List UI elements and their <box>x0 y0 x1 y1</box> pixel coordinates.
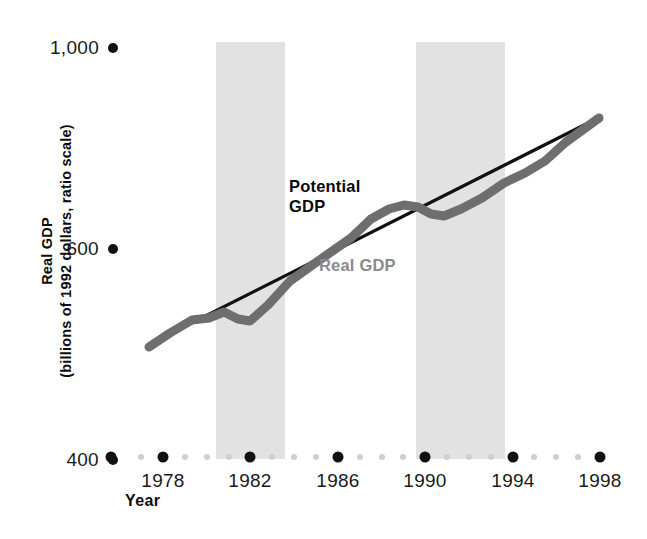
y-axis-title: Real GDP (billions of 1992 dollars, rati… <box>38 106 76 396</box>
x-major-dot-1994 <box>507 452 518 463</box>
x-minor-dot <box>204 454 210 460</box>
x-major-dot-1982 <box>245 452 256 463</box>
x-minor-dot <box>269 454 275 460</box>
annotation-real-gdp: Real GDP <box>319 255 396 275</box>
x-tick-label-1998: 1998 <box>578 470 621 492</box>
chart-figure: Potential GDP Real GDP 1,000 600 400 197… <box>0 0 647 539</box>
y-tick-600-dot <box>108 244 118 254</box>
x-minor-dot <box>575 454 581 460</box>
x-minor-dot <box>466 454 472 460</box>
y-tick-1000: 1,000 <box>18 37 118 59</box>
x-minor-dot <box>291 454 297 460</box>
x-minor-dot <box>182 454 188 460</box>
y-tick-400: 400 <box>18 449 118 471</box>
y-tick-1000-dot <box>108 43 118 53</box>
x-major-dot-1990 <box>420 452 431 463</box>
x-minor-dot <box>400 454 406 460</box>
x-minor-dot <box>553 454 559 460</box>
x-axis-origin-dot <box>105 452 116 463</box>
x-tick-label-1986: 1986 <box>316 470 359 492</box>
x-major-dot-1998 <box>595 452 606 463</box>
annotation-potential-gdp: Potential GDP <box>289 176 360 216</box>
x-tick-label-1982: 1982 <box>228 470 271 492</box>
x-minor-dot <box>444 454 450 460</box>
x-minor-dot <box>379 454 385 460</box>
y-tick-400-label: 400 <box>66 449 99 471</box>
x-minor-dot <box>357 454 363 460</box>
x-minor-dot <box>313 454 319 460</box>
x-tick-label-1990: 1990 <box>403 470 446 492</box>
x-minor-dot <box>138 454 144 460</box>
x-minor-dot <box>488 454 494 460</box>
x-minor-dot <box>226 454 232 460</box>
x-major-dot-1978 <box>158 452 169 463</box>
x-minor-dot <box>531 454 537 460</box>
x-axis-title: Year <box>125 492 160 510</box>
x-major-dot-1986 <box>332 452 343 463</box>
x-tick-label-1978: 1978 <box>141 470 184 492</box>
x-tick-label-1994: 1994 <box>491 470 534 492</box>
y-tick-1000-label: 1,000 <box>50 37 99 59</box>
